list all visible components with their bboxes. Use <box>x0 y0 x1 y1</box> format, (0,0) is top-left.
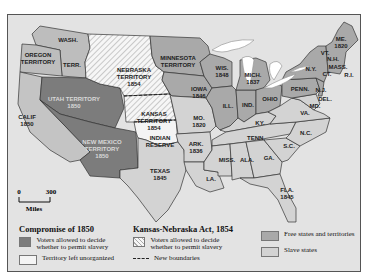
legend-kn-voters: Voters allowed to decide whether to perm… <box>150 237 243 252</box>
label-la: LA. <box>206 176 216 182</box>
legend-free: Free states and territories <box>284 231 355 239</box>
label-oregon-2: TERRITORY <box>21 59 55 65</box>
label-ny: N.Y. <box>305 66 316 72</box>
label-ky: KY. <box>255 120 265 126</box>
label-iowa-1: IOWA <box>191 86 208 92</box>
label-ct: CT. <box>323 71 332 77</box>
label-nebraska-2: TERRITORY <box>117 74 151 80</box>
swatch-free <box>261 231 279 241</box>
label-kansas-1: KANSAS <box>141 111 166 117</box>
label-nebraska-1: NEBRASKA <box>117 67 152 73</box>
label-oregon-1: OREGON <box>25 52 52 58</box>
label-kansas-2: TERRITORY <box>137 118 171 124</box>
legend-compromise: Compromise of 1850 Voters allowed to dec… <box>19 226 129 265</box>
label-texas-1: TEXAS <box>150 168 170 174</box>
label-minnesota-1: MINNESOTA <box>160 55 196 61</box>
legend-kn-title: Kansas-Nebraska Act, 1854 <box>133 226 243 234</box>
label-ri: R.I. <box>344 72 354 78</box>
label-me-1: ME. <box>336 36 347 42</box>
label-va: VA. <box>300 110 310 116</box>
label-texas-2: 1845 <box>153 175 167 181</box>
label-iowa-2: 1846 <box>192 93 206 99</box>
label-me-2: 1820 <box>334 43 348 49</box>
scale-max: 300 <box>46 188 57 196</box>
label-wis-2: 1848 <box>215 72 229 78</box>
legend-unorganized: Territory left unorganized <box>42 255 114 263</box>
legend-kansas-nebraska: Kansas-Nebraska Act, 1854 Voters allowed… <box>133 226 243 262</box>
label-ind: IND. <box>242 102 254 108</box>
label-nj: N.J. <box>315 87 326 93</box>
label-fla-2: 1845 <box>280 194 294 200</box>
swatch-hatch <box>133 237 145 247</box>
swatch-unorganized <box>19 255 37 265</box>
label-mich-1: MICH. <box>245 72 262 78</box>
label-calif-2: 1850 <box>20 121 34 127</box>
scale-bar: 0 300 Miles <box>17 188 57 213</box>
legend-slave: Slave states <box>284 247 317 255</box>
label-ark-1: ARK. <box>189 141 204 147</box>
label-mo-1: MO. <box>193 115 205 121</box>
legend-status: Free states and territories Slave states <box>261 228 361 257</box>
label-ala: ALA. <box>240 157 254 163</box>
label-ill: ILL. <box>223 103 234 109</box>
label-nm-1: NEW MEXICO <box>82 139 122 145</box>
label-mo-2: 1820 <box>192 122 206 128</box>
label-ga: GA. <box>264 155 275 161</box>
label-fla-1: FLA. <box>280 187 294 193</box>
label-nm-3: 1850 <box>95 153 109 159</box>
label-calif-1: CALIF <box>18 114 36 120</box>
label-miss: MISS. <box>219 157 236 163</box>
dashed-line-icon <box>133 258 149 259</box>
label-md: MD. <box>310 103 321 109</box>
label-nm-2: TERRITORY <box>85 146 119 152</box>
label-nh: N.H. <box>327 56 339 62</box>
label-utah-2: 1850 <box>67 103 81 109</box>
label-ohio: OHIO <box>262 96 278 102</box>
label-nebraska-3: 1854 <box>127 81 141 87</box>
label-kansas-3: 1854 <box>147 125 161 131</box>
legend-new-boundaries: New boundaries <box>154 255 200 263</box>
swatch-slave <box>261 247 279 257</box>
label-mass: MASS. <box>328 64 347 70</box>
label-tenn: TENN. <box>247 135 265 141</box>
label-utah-1: UTAH TERRITORY <box>48 96 100 102</box>
label-mich-2: 1837 <box>246 79 260 85</box>
label-wash: WASH. <box>58 37 78 43</box>
label-del: DEL. <box>318 96 332 102</box>
swatch-compromise <box>19 237 31 247</box>
label-ark-2: 1836 <box>189 148 203 154</box>
label-indian-1: INDIAN <box>150 135 171 141</box>
label-indian-2: RESERVE <box>146 142 175 148</box>
label-penn: PENN. <box>291 86 310 92</box>
label-nc: N.C. <box>300 130 312 136</box>
label-wis-1: WIS. <box>216 65 229 71</box>
legend-compromise-title: Compromise of 1850 <box>19 226 129 234</box>
label-minnesota-2: TERRITORY <box>161 62 195 68</box>
scale-unit: Miles <box>26 205 43 213</box>
scale-zero: 0 <box>17 188 21 196</box>
label-sc: S.C. <box>283 143 295 149</box>
legend-compromise-voters: Voters allowed to decide whether to perm… <box>36 237 129 252</box>
label-wash-terr: TERR. <box>63 62 81 68</box>
